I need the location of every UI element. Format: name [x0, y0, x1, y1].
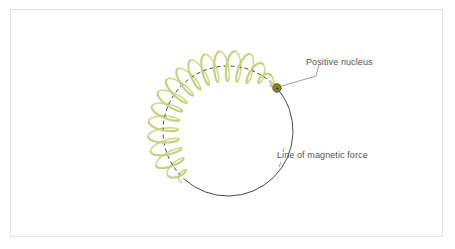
plus-icon: + — [275, 85, 279, 92]
magnetic-helix-diagram: + — [0, 0, 455, 249]
positive-nucleus: + — [273, 84, 281, 92]
force-leader-line-bottom — [279, 162, 281, 167]
nucleus-leader-line — [282, 65, 319, 86]
force-line-circle-solid — [185, 88, 294, 196]
helix-path-back — [148, 51, 277, 182]
positive-nucleus-label: Positive nucleus — [306, 57, 373, 67]
line-of-magnetic-force-label: Line of magnetic force — [277, 150, 368, 160]
